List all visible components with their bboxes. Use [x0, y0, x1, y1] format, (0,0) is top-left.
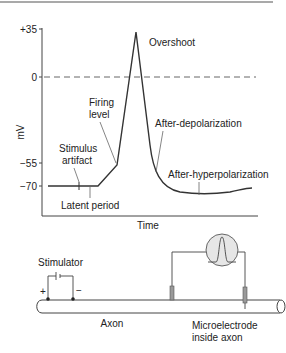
axon-label: Axon	[101, 318, 124, 329]
y-axis-label: mV	[15, 124, 26, 139]
stimulator-circuit	[48, 272, 73, 299]
tick-label-0: 0	[31, 72, 37, 83]
stimulus-artifact-pointer	[74, 168, 79, 182]
plus-sign: +	[40, 286, 46, 297]
after-hyperpolarization-label: After-hyperpolarization	[168, 169, 269, 180]
overshoot-label: Overshoot	[149, 37, 195, 48]
action-potential-diagram: +35 0 −55 −70 mV Time Overshoot Firing l…	[0, 0, 286, 353]
firing-level-label-line1: Firing	[89, 97, 114, 108]
stimulus-artifact-label-line2: artifact	[62, 155, 92, 166]
microelectrode	[243, 287, 247, 303]
firing-level-pointer	[100, 122, 116, 163]
y-axis	[39, 28, 42, 216]
microelectrode-label-line1: Microelectrode	[192, 320, 258, 331]
stimulator-electrode-negative	[71, 297, 75, 301]
reference-electrode	[170, 286, 174, 300]
after-depolarization-pointer	[156, 131, 163, 172]
firing-level-label-line2: level	[89, 109, 110, 120]
axon	[37, 300, 285, 313]
x-axis-label: Time	[137, 220, 159, 231]
tick-label-minus70: −70	[20, 181, 37, 192]
latent-period-label: Latent period	[61, 200, 119, 211]
stimulator-label: Stimulator	[38, 257, 84, 268]
minus-sign: −	[76, 285, 82, 296]
oscilloscope	[172, 234, 245, 293]
after-depolarization-label: After-depolarization	[155, 118, 242, 129]
stimulator-electrode-positive	[46, 297, 50, 301]
microelectrode-label-line2: inside axon	[192, 332, 243, 343]
tick-label-plus35: +35	[20, 24, 37, 35]
tick-label-minus55: −55	[20, 158, 37, 169]
stimulus-artifact-label-line1: Stimulus	[59, 143, 97, 154]
